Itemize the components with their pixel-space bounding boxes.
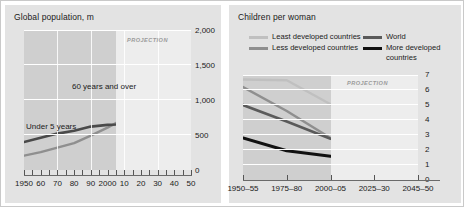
left-vgrid-1990 [91, 30, 92, 170]
left-gridline-500 [24, 134, 191, 135]
legend-label-world: World [386, 32, 406, 42]
left-x-axis-line [24, 175, 192, 176]
left-vgrid-2030 [158, 30, 159, 170]
left-ytick-0: 0 [195, 166, 199, 175]
right-xtick-1 [287, 175, 288, 180]
right-x-axis-line [243, 180, 440, 181]
left-xtick-2040 [174, 170, 175, 175]
right-xlabel-3: 2025–30 [355, 184, 393, 193]
left-xtick-1970 [57, 170, 58, 175]
right-xlabel-4: 2045–50 [399, 184, 437, 193]
legend-label-more-developed-countries: More developed countries [386, 43, 454, 62]
left-xtick-1990 [91, 170, 92, 175]
legend-label-less-developed-countries: Less developed countries [272, 43, 358, 53]
left-xtick-1985 [82, 170, 83, 175]
right-gridline-1 [243, 164, 418, 165]
left-gridline-1000 [24, 99, 191, 100]
legend-item-least-developed-countries: Least developed countries [249, 32, 361, 42]
right-gridline-6 [243, 89, 418, 90]
right-xlabel-0: 1950–55 [224, 184, 262, 193]
right-xtick-0 [243, 175, 244, 180]
chart-figure: Global population, m PROJECTION [0, 0, 464, 207]
right-ytick-6: 6 [425, 85, 429, 94]
right-gridline-2 [243, 149, 418, 150]
left-xtick-1995 [99, 170, 100, 175]
legend-swatch-less-developed-countries [249, 47, 268, 50]
left-xtick-2035 [166, 170, 167, 175]
legend-swatch-least-developed-countries [249, 36, 268, 39]
left-xtick-1975 [66, 170, 67, 175]
legend-swatch-world [363, 36, 382, 40]
right-gridline-5 [243, 104, 418, 105]
panel-children-per-woman: Children per woman Least developed count… [229, 5, 461, 203]
right-gridline-4 [243, 119, 418, 120]
left-xtick-1950 [24, 170, 25, 175]
left-xtick-1955 [32, 170, 33, 175]
legend-item-less-developed-countries: Less developed countries [249, 43, 358, 53]
left-vgrid-1970 [57, 30, 58, 170]
left-xtick-2000 [108, 170, 109, 175]
left-xtick-2045 [183, 170, 184, 175]
left-ytick-1000: 1,000 [195, 96, 215, 105]
left-vgrid-2010 [124, 30, 125, 170]
left-xtick-2030 [158, 170, 159, 175]
legend-swatch-more-developed-countries [363, 47, 382, 51]
left-xlabel-2050: 50 [177, 179, 205, 188]
left-xtick-2005 [116, 170, 117, 175]
right-ytick-7: 7 [425, 70, 429, 79]
right-plot-area: PROJECTION [243, 75, 418, 180]
left-xtick-1960 [41, 170, 42, 175]
left-projection-band [116, 30, 191, 170]
left-xtick-2050 [191, 170, 192, 175]
right-gridline-7 [243, 75, 418, 76]
left-xtick-1980 [74, 170, 75, 175]
left-xtick-1965 [49, 170, 50, 175]
right-projection-label: PROJECTION [347, 80, 388, 86]
left-xtick-2020 [141, 170, 142, 175]
left-ytick-2000: 2,000 [195, 26, 215, 35]
right-gridline-3 [243, 134, 418, 135]
left-projection-label: PROJECTION [127, 37, 168, 43]
left-panel-title: Global population, m [14, 12, 94, 22]
left-ytick-500: 500 [195, 131, 208, 140]
right-ytick-4: 4 [425, 115, 429, 124]
left-gridline-2000 [24, 30, 191, 31]
legend-item-more-developed-countries: More developed countries [363, 43, 455, 62]
right-xlabel-1: 1975–80 [268, 184, 306, 193]
left-annotation-under5: Under 5 years [26, 122, 76, 131]
left-annotation-over60: 60 years and over [72, 82, 136, 91]
right-panel-title: Children per woman [238, 12, 316, 22]
right-xtick-4 [418, 175, 419, 180]
left-ytick-1500: 1,500 [195, 61, 215, 70]
left-plot-area: PROJECTION 60 years and over [24, 30, 191, 170]
right-ytick-3: 3 [425, 130, 429, 139]
right-ytick-5: 5 [425, 100, 429, 109]
right-xtick-2 [331, 175, 332, 180]
left-xtick-2025 [149, 170, 150, 175]
left-xtick-2010 [124, 170, 125, 175]
left-gridline-1500 [24, 64, 191, 65]
legend-label-least-developed-countries: Least developed countries [272, 32, 361, 42]
right-xlabel-2: 2000–05 [312, 184, 350, 193]
left-xtick-2015 [133, 170, 134, 175]
legend-item-world: World [363, 32, 406, 42]
right-ytick-1: 1 [425, 160, 429, 169]
right-xtick-3 [374, 175, 375, 180]
right-ytick-2: 2 [425, 145, 429, 154]
panel-global-population: Global population, m PROJECTION [5, 5, 221, 203]
